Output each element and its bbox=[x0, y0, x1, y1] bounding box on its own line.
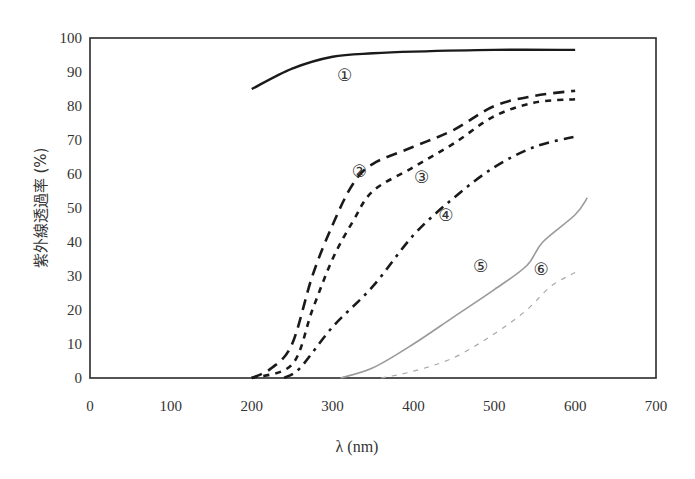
y-tick-label: 40 bbox=[67, 234, 82, 250]
y-axis-label: 紫外線透過率 (%) bbox=[32, 148, 50, 269]
x-tick-label: 500 bbox=[483, 398, 506, 414]
x-tick-label: 200 bbox=[240, 398, 263, 414]
series-line-2 bbox=[252, 91, 575, 378]
x-tick-label: 300 bbox=[321, 398, 344, 414]
y-tick-label: 60 bbox=[67, 166, 82, 182]
series-marker-1: ① bbox=[337, 65, 352, 85]
y-tick-label: 70 bbox=[67, 132, 82, 148]
series-marker-4: ④ bbox=[438, 205, 453, 225]
series-line-3 bbox=[252, 99, 575, 378]
y-tick-label: 50 bbox=[67, 200, 82, 216]
series-line-5 bbox=[341, 198, 588, 378]
series-line-1 bbox=[252, 50, 575, 89]
x-axis-label: λ (nm) bbox=[336, 438, 379, 456]
x-tick-label: 600 bbox=[564, 398, 587, 414]
y-tick-label: 10 bbox=[67, 336, 82, 352]
series-marker-6: ⑥ bbox=[534, 259, 549, 279]
series-line-6 bbox=[381, 273, 575, 378]
y-tick-label: 30 bbox=[67, 268, 82, 284]
x-tick-label: 100 bbox=[160, 398, 183, 414]
y-tick-label: 100 bbox=[60, 30, 83, 46]
y-tick-label: 20 bbox=[67, 302, 82, 318]
y-tick-label: 90 bbox=[67, 64, 82, 80]
x-tick-label: 400 bbox=[402, 398, 425, 414]
y-tick-label: 0 bbox=[75, 370, 83, 386]
y-tick-label: 80 bbox=[67, 98, 82, 114]
x-tick-label: 700 bbox=[645, 398, 668, 414]
series-lines bbox=[252, 50, 588, 378]
y-axis-ticks: 0102030405060708090100 bbox=[60, 30, 83, 386]
series-markers: ①②③④⑤⑥ bbox=[337, 65, 549, 279]
uv-transmittance-chart: 0102030405060708090100 01002003004005006… bbox=[0, 0, 695, 479]
series-line-4 bbox=[284, 137, 575, 378]
axes-box bbox=[90, 38, 656, 378]
series-marker-3: ③ bbox=[414, 167, 429, 187]
x-tick-label: 0 bbox=[86, 398, 94, 414]
series-marker-5: ⑤ bbox=[473, 256, 488, 276]
x-axis-ticks: 0100200300400500600700 bbox=[86, 398, 667, 414]
series-marker-2: ② bbox=[352, 161, 367, 181]
plot-frame bbox=[90, 38, 656, 378]
